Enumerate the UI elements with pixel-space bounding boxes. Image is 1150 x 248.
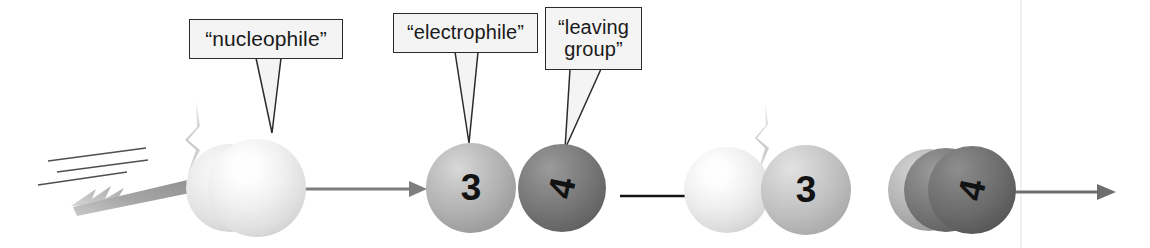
callout-nucleophile: “nucleophile” bbox=[189, 19, 343, 59]
atom-nucleophile-product bbox=[684, 147, 770, 233]
atom-label-3-reactant: 3 bbox=[461, 167, 482, 209]
reaction-arrow-3 bbox=[1012, 184, 1116, 200]
motion-lines bbox=[38, 148, 148, 185]
callout-electrophile-text: “electrophile” bbox=[407, 22, 524, 44]
atom-sphere-3-product: 3 bbox=[761, 145, 851, 235]
callout-tail-leaving-group bbox=[565, 69, 601, 149]
callout-nucleophile-text: “nucleophile” bbox=[205, 28, 327, 51]
callout-tail-nucleophile bbox=[256, 58, 281, 133]
atom-sphere-3-reactant: 3 bbox=[426, 143, 516, 233]
reaction-scheme-figure: 3 4 3 4 “nucleophile” “electrophile” “le… bbox=[0, 0, 1150, 248]
callout-leaving-group: “leaving group” bbox=[545, 7, 642, 70]
atom-label-3-product: 3 bbox=[796, 169, 817, 211]
callout-tail-electrophile bbox=[455, 52, 478, 143]
callout-electrophile: “electrophile” bbox=[393, 13, 538, 53]
atom-label-4-product: 4 bbox=[949, 176, 994, 204]
atom-nucleophile-front bbox=[208, 139, 306, 237]
atom-sphere-4-reactant: 4 bbox=[518, 144, 606, 232]
atom-sphere-4-product: 4 bbox=[928, 146, 1016, 234]
atom-label-4-reactant: 4 bbox=[539, 174, 584, 202]
callout-leaving-group-text: “leaving group” bbox=[558, 17, 629, 60]
reaction-arrow-1 bbox=[305, 181, 427, 197]
